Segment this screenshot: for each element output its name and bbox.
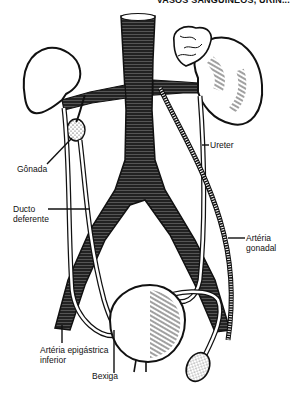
label-arteria-gonadal: Artéria gonadal [246, 233, 292, 253]
label-ducto-deferente: Ducto deferente [13, 204, 49, 224]
label-arteria-epigastrica: Artéria epigástrica inferior [40, 345, 109, 365]
label-ducto-line2: deferente [13, 214, 49, 224]
testis [182, 349, 215, 385]
urogenital-diagram [0, 0, 292, 393]
label-gonada: Gônada [17, 164, 47, 174]
label-ureter: Ureter [210, 140, 234, 150]
label-bexiga: Bexiga [92, 371, 118, 381]
label-epigastrica-line2: inferior [40, 355, 109, 365]
bladder [110, 285, 185, 372]
label-epigastrica-line1: Artéria epigástrica [40, 345, 109, 355]
label-ducto-line1: Ducto [13, 204, 49, 214]
right-kidney [174, 27, 262, 125]
gonad-left [67, 119, 85, 141]
